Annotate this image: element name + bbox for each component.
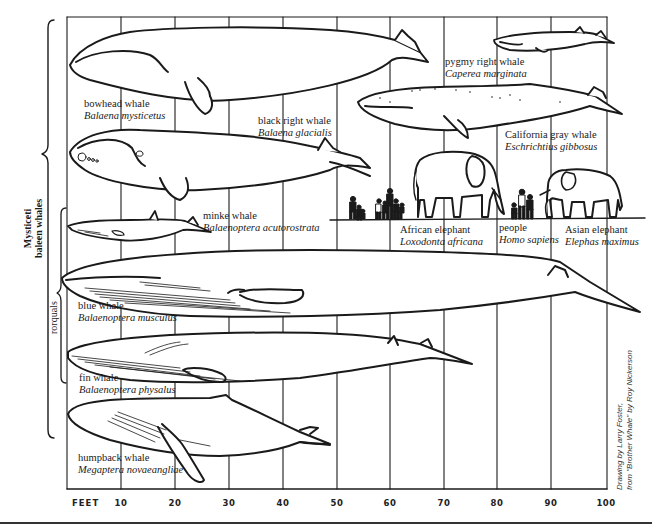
label-bowhead: bowhead whale Balaena mysticetus: [84, 98, 165, 122]
common-name: California gray whale: [505, 129, 597, 141]
scientific-name: Caperea marginata: [445, 68, 527, 80]
rorquals-bracket: [57, 208, 66, 383]
african-elephant-drawing: [414, 152, 504, 217]
group-mysticeti-line2: baleen whales: [33, 199, 44, 258]
label-humpback-whale: humpback whale Megaptera novaeangliae: [78, 452, 183, 476]
scientific-name: Eschrichtius gibbosus: [505, 141, 597, 153]
people-crowd-drawing: [350, 188, 404, 220]
people-drawing: [512, 189, 533, 219]
label-blue-whale: blue whale Balaenoptera musculus: [78, 300, 177, 324]
label-fin-whale: fin whale Balaenoptera physalus: [79, 372, 176, 396]
scientific-name: Elephas maximus: [565, 236, 639, 248]
axis-tick-40: 40: [277, 498, 290, 508]
label-minke-whale: minke whale Balaenoptera acutorostrata: [203, 210, 320, 234]
axis-tick-90: 90: [545, 498, 558, 508]
scientific-name: Homo sapiens: [499, 234, 559, 246]
label-black-right-whale: black right whale Balaena glacialis: [258, 115, 332, 139]
minke-whale-drawing: [68, 211, 211, 241]
label-asian-elephant: Asian elephant Elephas maximus: [565, 224, 639, 248]
black-right-whale-drawing: [70, 130, 370, 200]
common-name: humpback whale: [78, 452, 183, 464]
asian-elephant-drawing: [540, 169, 622, 217]
credit-line1: Drawing by Larry Foster,: [615, 350, 625, 490]
common-name: people: [499, 222, 559, 234]
group-label-mysticeti: Mysticeti baleen whales: [22, 199, 44, 258]
axis-tick-50: 50: [331, 498, 344, 508]
whale-size-comparison-diagram: bowhead whale Balaena mysticetus black r…: [0, 0, 652, 528]
pygmy-right-whale-drawing: [494, 27, 614, 52]
credit-line2: from "Brother Whale" by Roy Nickerson: [625, 350, 635, 490]
scientific-name: Balaenoptera musculus: [78, 312, 177, 324]
common-name: Asian elephant: [565, 224, 639, 236]
axis-tick-70: 70: [438, 498, 451, 508]
axis-tick-10: 10: [115, 498, 128, 508]
common-name: pygmy right whale: [445, 56, 527, 68]
scientific-name: Balaenoptera acutorostrata: [203, 222, 320, 234]
bottom-rule: [0, 522, 652, 524]
axis-tick-20: 20: [169, 498, 182, 508]
axis-tick-100: 100: [596, 498, 615, 508]
diagram-artwork: [0, 0, 652, 528]
scientific-name: Loxodonta africana: [400, 236, 483, 248]
group-mysticeti-line1: Mysticeti: [22, 199, 33, 258]
scientific-name: Megaptera novaeangliae: [78, 464, 183, 476]
axis-tick-80: 80: [491, 498, 504, 508]
axis-unit-label: FEET: [72, 498, 99, 508]
label-african-elephant: African elephant Loxodonta africana: [400, 224, 483, 248]
common-name: fin whale: [79, 372, 176, 384]
label-people: people Homo sapiens: [499, 222, 559, 246]
common-name: black right whale: [258, 115, 332, 127]
scientific-name: Balaenoptera physalus: [79, 384, 176, 396]
group-label-rorquals: rorquals: [48, 301, 59, 334]
scientific-name: Balaena mysticetus: [84, 110, 165, 122]
common-name: bowhead whale: [84, 98, 165, 110]
axis-tick-30: 30: [223, 498, 236, 508]
common-name: blue whale: [78, 300, 177, 312]
scientific-name: Balaena glacialis: [258, 127, 332, 139]
axis-tick-60: 60: [384, 498, 397, 508]
label-gray-whale: California gray whale Eschrichtius gibbo…: [505, 129, 597, 153]
drawing-credit: Drawing by Larry Foster, from "Brother W…: [615, 350, 635, 490]
label-pygmy-right-whale: pygmy right whale Caperea marginata: [445, 56, 527, 80]
common-name: African elephant: [400, 224, 483, 236]
common-name: minke whale: [203, 210, 320, 222]
